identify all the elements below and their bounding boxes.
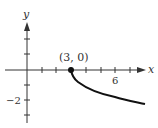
curve	[71, 70, 145, 104]
x-tick-label-6: 6	[112, 75, 118, 86]
x-axis-label: x	[148, 63, 155, 76]
point-marker	[68, 67, 74, 73]
y-axis-arrow-icon	[24, 22, 30, 31]
graph: y x (3, 0) 6 −2	[0, 0, 158, 128]
point-label: (3, 0)	[59, 51, 89, 64]
y-axis-label: y	[22, 8, 30, 21]
x-axis-arrow-icon	[137, 67, 146, 73]
y-tick-label-neg2: −2	[6, 95, 21, 106]
